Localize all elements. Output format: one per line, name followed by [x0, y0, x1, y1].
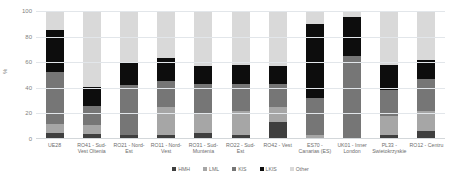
bar-segment-other[interactable] — [306, 11, 324, 24]
bar-segment-lml[interactable] — [46, 124, 64, 133]
legend-swatch-icon — [232, 167, 236, 171]
gridline — [36, 113, 445, 114]
y-axis-tick-label: 100 — [22, 8, 32, 14]
bar-segment-lkis[interactable] — [83, 87, 101, 106]
stacked-bar-chart: % 020406080100 UE28RO41 - Sud-Vest Olten… — [0, 0, 453, 176]
bar-slot — [110, 11, 147, 139]
y-axis-tick-label: 20 — [25, 110, 32, 116]
chart-legend: HMHLMLKISLKISOther — [36, 163, 445, 174]
x-axis-tick-label: RO31 - Sud-Muntenia — [185, 142, 222, 162]
gridline — [36, 88, 445, 89]
bar-segment-other[interactable] — [232, 11, 250, 65]
bar-segment-other[interactable] — [46, 11, 64, 30]
bar-segment-lml[interactable] — [83, 125, 101, 134]
bar-segment-lkis[interactable] — [120, 62, 138, 85]
bar-slot — [371, 11, 408, 139]
bar-segment-kis[interactable] — [417, 79, 435, 111]
legend-item-other[interactable]: Other — [290, 166, 309, 172]
x-axis-labels: UE28RO41 - Sud-Vest OlteniaRO21 - Nord-E… — [36, 142, 445, 162]
x-axis-tick-label: UK01 - Inner London — [334, 142, 371, 162]
stacked-bar[interactable] — [194, 11, 212, 139]
bar-slot — [73, 11, 110, 139]
bar-segment-lml[interactable] — [232, 111, 250, 135]
x-axis-tick-label: ES70 - Canarias (ES) — [296, 142, 333, 162]
legend-swatch-icon — [260, 167, 264, 171]
y-axis-tick-label: 80 — [25, 34, 32, 40]
bar-segment-other[interactable] — [269, 11, 287, 66]
bar-segment-hmh[interactable] — [269, 122, 287, 139]
stacked-bar[interactable] — [46, 11, 64, 139]
bar-segment-kis[interactable] — [83, 106, 101, 125]
bar-slot — [408, 11, 445, 139]
stacked-bar[interactable] — [343, 11, 361, 139]
bar-segment-other[interactable] — [417, 11, 435, 60]
bar-slot — [36, 11, 73, 139]
legend-item-lkis[interactable]: LKIS — [260, 166, 277, 172]
stacked-bar[interactable] — [83, 11, 101, 139]
bar-segment-kis[interactable] — [157, 81, 175, 107]
stacked-bar[interactable] — [120, 11, 138, 139]
bar-segment-other[interactable] — [83, 11, 101, 87]
bar-slot — [148, 11, 185, 139]
legend-label: KIS — [238, 166, 246, 172]
bar-segment-lml[interactable] — [269, 107, 287, 122]
bar-slot — [185, 11, 222, 139]
bar-slot — [296, 11, 333, 139]
legend-swatch-icon — [290, 167, 294, 171]
bar-slot — [222, 11, 259, 139]
x-axis-tick-label: RO21 - Nord-Est — [110, 142, 147, 162]
bar-segment-lkis[interactable] — [269, 66, 287, 84]
bar-slot — [334, 11, 371, 139]
y-axis-tick-label: 0 — [29, 136, 32, 142]
gridline — [36, 37, 445, 38]
legend-swatch-icon — [203, 167, 207, 171]
y-axis-tick-label: 40 — [25, 85, 32, 91]
bar-segment-kis[interactable] — [306, 98, 324, 135]
stacked-bar[interactable] — [306, 11, 324, 139]
bar-segment-lkis[interactable] — [232, 65, 250, 84]
legend-item-kis[interactable]: KIS — [232, 166, 246, 172]
y-axis-title: % — [2, 69, 8, 74]
bar-segment-other[interactable] — [380, 11, 398, 65]
bar-segment-lkis[interactable] — [380, 65, 398, 91]
y-axis: % 020406080100 — [0, 0, 36, 139]
x-axis-tick-label: RO42 - Vest — [259, 142, 296, 162]
bar-segment-other[interactable] — [194, 11, 212, 66]
stacked-bar[interactable] — [157, 11, 175, 139]
legend-label: LML — [209, 166, 219, 172]
legend-label: Other — [296, 166, 309, 172]
legend-label: LKIS — [266, 166, 277, 172]
bar-segment-kis[interactable] — [120, 85, 138, 135]
x-axis-tick-label: RO22 - Sud-Est — [222, 142, 259, 162]
x-axis-tick-label: PL33 - Swietokrzyskie — [371, 142, 408, 162]
bar-segment-other[interactable] — [157, 11, 175, 58]
bar-segment-lml[interactable] — [380, 116, 398, 135]
legend-swatch-icon — [172, 167, 176, 171]
stacked-bar[interactable] — [232, 11, 250, 139]
y-axis-tick-label: 60 — [25, 59, 32, 65]
x-axis-tick-label: RO12 - Centru — [408, 142, 445, 162]
bar-segment-kis[interactable] — [343, 56, 361, 139]
bar-group — [36, 11, 445, 139]
legend-item-hmh[interactable]: HMH — [172, 166, 190, 172]
bar-segment-kis[interactable] — [46, 72, 64, 123]
x-axis-tick-label: RO41 - Sud-Vest Oltenia — [73, 142, 110, 162]
bar-segment-lml[interactable] — [194, 113, 212, 132]
legend-item-lml[interactable]: LML — [203, 166, 219, 172]
gridline — [36, 62, 445, 63]
x-axis-tick-label: RO11 - Nord-Vest — [148, 142, 185, 162]
bar-slot — [259, 11, 296, 139]
bar-segment-lkis[interactable] — [194, 66, 212, 84]
bar-segment-kis[interactable] — [380, 90, 398, 116]
stacked-bar[interactable] — [417, 11, 435, 139]
x-axis-line — [36, 138, 445, 139]
bar-segment-lml[interactable] — [157, 107, 175, 135]
stacked-bar[interactable] — [269, 11, 287, 139]
legend-label: HMH — [178, 166, 190, 172]
x-axis-tick-label: UE28 — [36, 142, 73, 162]
stacked-bar[interactable] — [380, 11, 398, 139]
gridline — [36, 11, 445, 12]
plot-area — [36, 11, 445, 139]
